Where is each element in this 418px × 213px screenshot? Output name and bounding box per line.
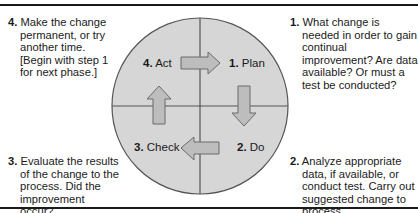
description-check: 3. Evaluate the results of the change to… [8,155,120,213]
description-text: What change is needed in order to gain c… [302,16,418,91]
description-text: Make the change permanent, or try anothe… [20,16,108,78]
quadrant-plan: 1. Plan [229,57,265,69]
quadrant-step-number: 2. [237,141,247,153]
description-do: 2. Analyze appropriate data, if availabl… [290,155,418,213]
quadrant-step-number: 1. [229,57,239,69]
description-step-number: 4. [8,16,17,28]
quadrant-label: Act [155,57,172,69]
quadrant-label: Do [250,141,265,153]
quadrant-do: 2. Do [237,141,265,153]
description-step-number: 1. [290,16,299,28]
description-text: Analyze appropriate data, if available, … [302,155,415,213]
quadrant-label: Check [147,141,180,153]
description-step-number: 2. [290,155,299,167]
quadrant-step-number: 4. [143,57,153,69]
description-step-number: 3. [8,155,17,167]
description-text: Evaluate the results of the change to th… [20,155,119,213]
quadrant-label: Plan [242,57,265,69]
description-plan: 1. What change is needed in order to gai… [290,16,418,92]
description-act: 4. Make the change permanent, or try ano… [8,16,120,79]
quadrant-act: 4. Act [143,57,172,69]
quadrant-check: 3. Check [134,141,179,153]
quadrant-step-number: 3. [134,141,144,153]
